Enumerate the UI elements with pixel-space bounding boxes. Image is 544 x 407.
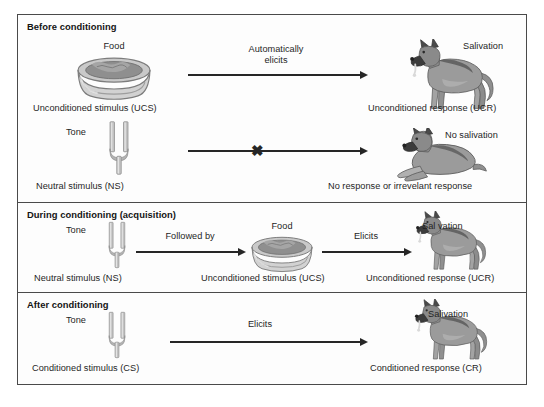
panel-title-after: After conditioning (27, 299, 109, 310)
food-label-during: Food (271, 221, 292, 231)
arrow-head (360, 147, 368, 155)
salivation-label-row1: Salivation (463, 41, 503, 51)
panel-during-conditioning: During conditioning (acquisition) Tone N… (18, 203, 526, 293)
panel-title-during: During conditioning (acquisition) (27, 209, 176, 220)
arrow-head (360, 71, 368, 79)
tone-label-row2: Tone (66, 127, 86, 137)
ns-caption-row2: Neutral stimulus (NS) (36, 181, 124, 191)
cr-caption-after: Conditioned response (CR) (370, 363, 482, 373)
ucr-caption-during: Unconditioned response (UCR) (366, 273, 494, 283)
food-bowl-icon-during (246, 233, 318, 273)
tone-label-after: Tone (66, 315, 86, 325)
classical-conditioning-diagram: Before conditioning Food Unconditioned s… (17, 14, 527, 385)
arrow-label-elicits-after: Elicits (248, 319, 272, 329)
ucs-caption-during: Unconditioned stimulus (UCS) (201, 273, 325, 283)
cs-caption-after: Conditioned stimulus (CS) (32, 363, 139, 373)
food-label-row1: Food (103, 41, 124, 51)
ucs-caption-row1: Unconditioned stimulus (UCS) (33, 103, 157, 113)
arrow-elicits-during (322, 247, 412, 257)
tone-label-during: Tone (66, 225, 86, 235)
arrow-label-followed-by: Followed by (165, 231, 214, 241)
salivation-label-during: Sal vation (422, 221, 463, 231)
arrow-shaft (188, 150, 361, 152)
blocked-x-icon: ✖ (251, 144, 264, 157)
ucr-caption-row1: Unconditioned response (UCR) (368, 103, 496, 113)
panel-title-before: Before conditioning (27, 21, 117, 32)
arrow-head (360, 338, 368, 346)
arrow-ucs-to-ucr (188, 70, 368, 80)
arrow-shaft (188, 74, 361, 76)
arrow-cs-to-cr (170, 337, 368, 347)
arrow-shaft (170, 341, 361, 343)
arrow-label-automatically-elicits: Automatically elicits (249, 44, 304, 66)
arrow-shaft (136, 251, 239, 253)
arrow-shaft (322, 251, 405, 253)
food-bowl-icon (71, 53, 157, 101)
arrow-followed-by (136, 247, 246, 257)
no-salivation-label: No salivation (445, 130, 498, 140)
panel-after-conditioning: After conditioning Tone Conditioned stim… (18, 293, 526, 383)
arrow-label-line1: Automatically (249, 44, 304, 55)
arrow-head (238, 248, 246, 256)
panel-before-conditioning: Before conditioning Food Unconditioned s… (18, 15, 526, 203)
arrow-label-elicits-during: Elicits (354, 231, 378, 241)
arrow-label-line2: elicits (249, 55, 304, 66)
no-response-caption: No response or irrevelant response (328, 181, 472, 191)
tuning-fork-icon-during (104, 221, 130, 269)
tuning-fork-icon-after (104, 311, 130, 359)
salivation-label-after: Salivation (428, 309, 468, 319)
tuning-fork-icon-row2 (104, 120, 134, 176)
arrow-ns-to-no-response (188, 146, 368, 156)
ns-caption-during: Neutral stimulus (NS) (34, 273, 122, 283)
